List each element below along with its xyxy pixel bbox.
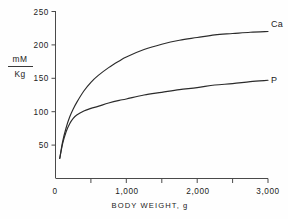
y-axis-title-numerator: mM (13, 54, 28, 64)
series-curve-ca (60, 32, 268, 159)
series-curve-p (60, 80, 268, 158)
y-tick-label-50: 50 (39, 141, 49, 150)
y-tick-label-0: 0 (52, 187, 57, 196)
x-axis-tick-labels: 1,000 2,000 3,000 (115, 187, 280, 196)
series-label-p: P (271, 75, 277, 85)
x-tick-label-3000: 3,000 (256, 187, 280, 196)
x-axis-ticks (91, 179, 268, 184)
x-axis-title: BODY WEIGHT, g (112, 201, 189, 210)
y-tick-label-150: 150 (34, 74, 49, 83)
chart-figure: 250 200 150 100 50 0 1,000 2,000 3,000 B… (0, 0, 288, 219)
y-axis-title: mM Kg (8, 54, 33, 79)
y-tick-label-250: 250 (34, 8, 49, 17)
x-tick-label-1000: 1,000 (115, 187, 139, 196)
axes-group (56, 11, 269, 179)
y-tick-label-200: 200 (34, 41, 49, 50)
y-axis-ticks (52, 12, 56, 146)
y-axis-tick-labels: 250 200 150 100 50 0 (34, 8, 58, 196)
x-tick-label-2000: 2,000 (186, 187, 210, 196)
chart-svg: 250 200 150 100 50 0 1,000 2,000 3,000 B… (0, 0, 288, 219)
y-axis-title-denominator: Kg (14, 69, 25, 79)
series-label-ca: Ca (271, 19, 283, 29)
y-tick-label-100: 100 (34, 108, 49, 117)
